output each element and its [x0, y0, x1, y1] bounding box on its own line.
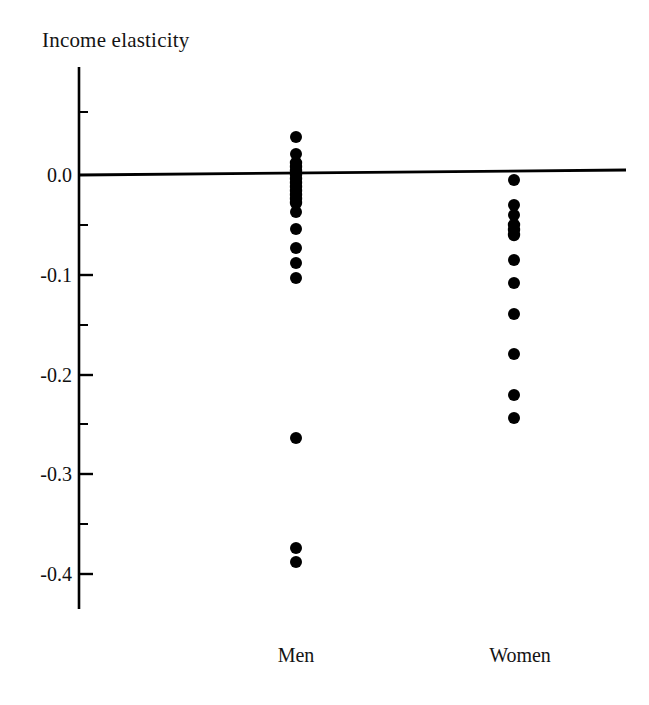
data-point	[290, 542, 302, 554]
plot-canvas	[0, 0, 649, 705]
y-axis-group	[79, 67, 93, 609]
data-point	[508, 277, 520, 289]
y-tick-label-0: 0.0	[18, 165, 72, 185]
data-point	[290, 131, 302, 143]
y-tick-label-4: -0.4	[18, 564, 72, 584]
series-women	[508, 174, 520, 424]
data-point	[290, 556, 302, 568]
y-tick-label-1: -0.1	[18, 265, 72, 285]
group-label-men: Men	[278, 644, 315, 666]
data-point	[508, 348, 520, 360]
data-point	[290, 432, 302, 444]
y-tick-label-3: -0.3	[18, 464, 72, 484]
y-tick-label-2: -0.2	[18, 365, 72, 385]
zero-reference-line	[79, 170, 626, 175]
data-point	[508, 174, 520, 186]
data-point	[290, 242, 302, 254]
data-point	[290, 257, 302, 269]
series-men	[290, 131, 302, 568]
data-point	[508, 308, 520, 320]
data-point	[290, 223, 302, 235]
data-point	[508, 229, 520, 241]
dot-plot-chart: Income elasticity	[0, 0, 649, 705]
group-label-women: Women	[489, 644, 551, 666]
data-point	[508, 389, 520, 401]
data-point	[290, 206, 302, 218]
data-point	[508, 254, 520, 266]
data-point	[290, 272, 302, 284]
data-point	[508, 412, 520, 424]
